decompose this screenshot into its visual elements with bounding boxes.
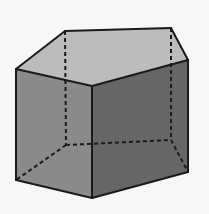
prism-faces [16,28,188,198]
left-front-face [16,69,92,198]
pentagonal-prism-diagram [0,0,209,214]
